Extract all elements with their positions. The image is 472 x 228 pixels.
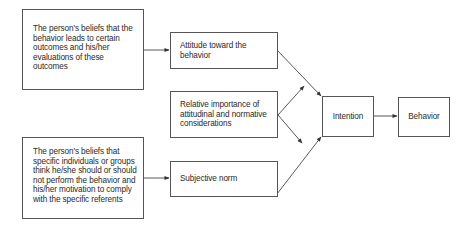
arrow-subjective-norm-to-intention (277, 137, 321, 194)
intention-label: Intention (333, 112, 364, 122)
arrow-importance-to-norm-path (278, 115, 302, 143)
attitude-label: Attitude toward the behavior (180, 41, 271, 60)
attitude-box: Attitude toward the behavior (170, 32, 278, 69)
behavior-box: Behavior (398, 97, 450, 137)
relative-importance-label: Relative importance of attitudinal and n… (180, 100, 271, 129)
subjective-norm-box: Subjective norm (170, 161, 278, 197)
beliefs-outcomes-box: The person's beliefs that the behavior l… (22, 9, 144, 90)
subjective-norm-label: Subjective norm (180, 174, 237, 184)
beliefs-referents-box: The person's beliefs that specific indiv… (22, 137, 144, 219)
beliefs-outcomes-label: The person's beliefs that the behavior l… (33, 24, 137, 72)
arrow-importance-to-attitude-path (278, 86, 304, 115)
arrow-attitude-to-intention (277, 50, 321, 96)
beliefs-referents-label: The person's beliefs that specific indiv… (33, 147, 137, 205)
behavior-label: Behavior (408, 112, 440, 122)
relative-importance-box: Relative importance of attitudinal and n… (170, 91, 278, 138)
intention-box: Intention (322, 96, 374, 137)
